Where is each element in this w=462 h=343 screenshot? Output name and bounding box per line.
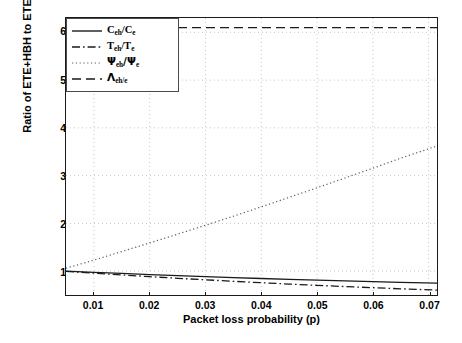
legend-item: Λeh/e: [67, 71, 178, 87]
x-tick-mark: [261, 292, 262, 296]
legend-item: Teh/Te: [67, 39, 178, 55]
x-tick-mark: [149, 292, 150, 296]
x-tick-label: 0.05: [307, 299, 327, 311]
legend-line-sample: [71, 42, 103, 52]
x-tick-label: 0.01: [83, 299, 103, 311]
legend-item: Ceh/Ce: [67, 23, 178, 39]
series-line-0: [66, 271, 437, 283]
y-axis-title: Ratio of ETE+HBH to ETE: [21, 0, 33, 181]
legend-label: Λeh/e: [107, 72, 128, 85]
legend-line-sample: [71, 58, 103, 68]
x-axis-title: Packet loss probability (p): [65, 313, 438, 325]
x-tick-label: 0.04: [251, 299, 271, 311]
legend-item: Ψeh/Ψe: [67, 55, 178, 71]
x-tick-mark: [317, 292, 318, 296]
legend: Ceh/CeTeh/TeΨeh/ΨeΛeh/e: [66, 18, 179, 92]
figure-canvas: Ratio of ETE+HBH to ETE 123456 Ceh/CeTeh…: [0, 0, 462, 343]
legend-line-sample: [71, 26, 103, 36]
x-tick-label: 0.06: [363, 299, 383, 311]
legend-line-sample: [71, 74, 103, 84]
legend-label: Ceh/Ce: [107, 25, 135, 37]
x-tick-label: 0.07: [419, 299, 439, 311]
x-tick-label: 0.03: [195, 299, 215, 311]
series-line-2: [66, 146, 437, 268]
x-tick-label: 0.02: [139, 299, 159, 311]
legend-label: Ψeh/Ψe: [107, 56, 139, 69]
x-tick-mark: [430, 292, 431, 296]
x-tick-mark: [93, 292, 94, 296]
x-tick-mark: [373, 292, 374, 296]
series-line-1: [66, 271, 437, 290]
x-tick-mark: [205, 292, 206, 296]
legend-label: Teh/Te: [107, 41, 134, 53]
